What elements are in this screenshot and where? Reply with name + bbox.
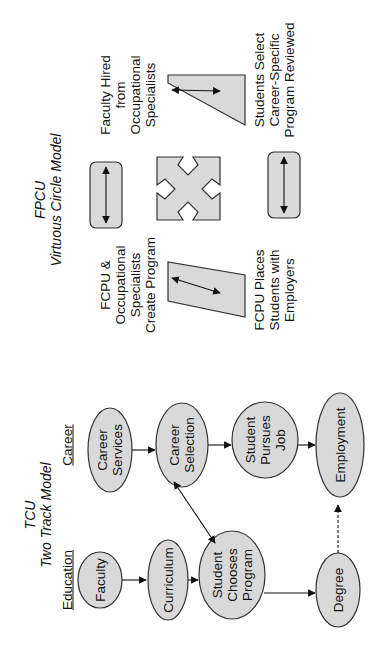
track-education-label: Education [60,550,75,610]
fpcu-subtitle-text: Virtuous Circle Model [48,134,64,267]
fpcu-title: FPCU Virtuous Circle Model [32,134,64,267]
track-career-label: Career [60,424,75,465]
label-fcpu-create: FCPU &OccupationalSpecialistsCreate Prog… [98,237,158,333]
label-faculty-hired: Faculty HiredfromOccupationalSpecialists [98,55,158,135]
diagram-shapes [0,0,377,663]
label-student-chooses: StudentChoosesProgram [210,548,255,601]
label-employment: Employment [333,407,348,482]
label-curriculum: Curriculum [161,547,176,612]
label-fcpu-places: FCPU PlacesStudents withEmployers [252,249,297,330]
label-career-selection: CareerSelection [167,417,197,473]
tcu-subtitle-text: Two Track Model [38,462,54,567]
label-career-services: CareerServices [95,424,125,476]
label-degree: Degree [331,568,346,612]
fpcu-title-text: FPCU [32,134,48,267]
label-faculty: Faculty [93,558,108,602]
tcu-title-text: TCU [22,462,38,567]
label-student-pursues: StudentPursuesJob [243,415,288,465]
four-way-arrow-icon [157,157,220,220]
create-program-parallelogram [168,262,245,317]
tcu-title: TCU Two Track Model [22,462,54,567]
label-students-select: Students SelectCareer-SpecificProgram Re… [252,23,297,138]
places-students-parallelogram [168,75,245,125]
diagram-canvas: TCU Two Track Model Education Career Fac… [0,0,377,663]
